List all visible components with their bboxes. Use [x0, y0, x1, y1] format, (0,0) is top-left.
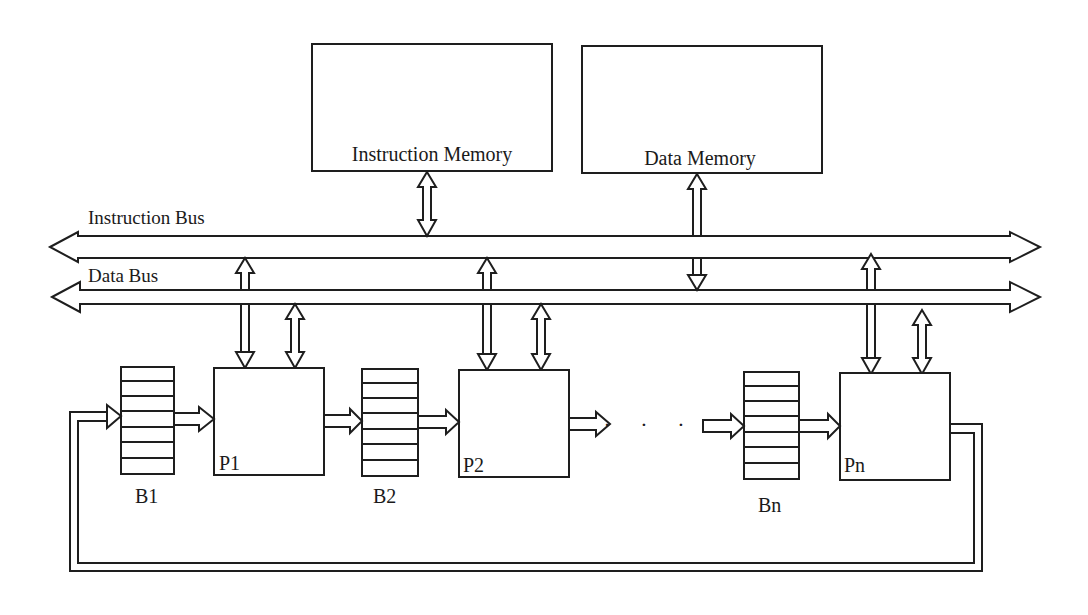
imem-ibus-connector-arrow [418, 172, 436, 236]
ellipsis-dots: · · · [604, 412, 697, 437]
data-bus-label: Data Bus [88, 265, 158, 286]
processor-pn: Pn [840, 373, 950, 480]
instruction-bus-label: Instruction Bus [88, 207, 205, 228]
b2-to-p2-arrow [418, 410, 459, 434]
p2-ibus-connector-arrow [478, 258, 496, 370]
processor-p2-label: P2 [463, 454, 484, 476]
processor-p2: P2 [459, 370, 569, 477]
data-bus: Data Bus [52, 265, 1040, 312]
bn-to-pn-arrow [799, 414, 840, 438]
instruction-memory-label: Instruction Memory [352, 143, 513, 166]
ellipsis: · · · [604, 412, 697, 437]
buffer-b1: B1 [121, 367, 174, 507]
buffer-b2-label: B2 [373, 485, 396, 507]
buffer-bn: Bn [744, 372, 799, 516]
processor-pn-label: Pn [844, 454, 865, 476]
dmem-dbus-connector-arrow [688, 174, 706, 290]
buffer-b2: B2 [362, 369, 418, 507]
data-memory: Data Memory [582, 46, 822, 173]
prev-to-bn-arrow [703, 414, 744, 438]
pn-dbus-connector-arrow [913, 310, 931, 374]
instruction-bus: Instruction Bus [50, 207, 1040, 262]
pn-ibus-connector-arrow [862, 254, 880, 374]
multiprocessor-pipeline-diagram: Instruction Memory Data Memory Instructi… [0, 0, 1088, 615]
buffer-bn-label: Bn [758, 494, 781, 516]
p1-to-b2-arrow [324, 409, 362, 433]
processor-p1-label: P1 [219, 452, 240, 474]
b1-to-p1-arrow [174, 407, 214, 431]
p2-dbus-connector-arrow [532, 304, 550, 370]
instruction-memory: Instruction Memory [312, 44, 552, 171]
buffer-b1-label: B1 [135, 485, 158, 507]
p1-ibus-connector-arrow [236, 258, 254, 368]
data-memory-label: Data Memory [644, 147, 756, 170]
processor-p1: P1 [214, 368, 324, 475]
p1-dbus-connector-arrow [286, 304, 304, 368]
